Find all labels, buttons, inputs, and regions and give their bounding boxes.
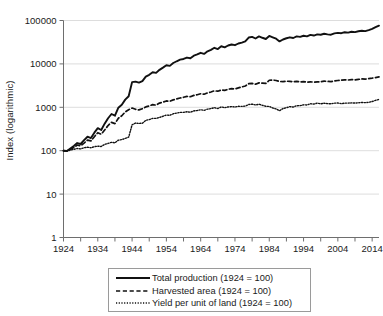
x-tick-label: 1944 bbox=[122, 243, 143, 254]
legend-item-yield: Yield per unit of land (1924 = 100) bbox=[114, 297, 304, 309]
x-tick-label: 1964 bbox=[190, 243, 211, 254]
legend-label-total: Total production (1924 = 100) bbox=[152, 272, 273, 284]
chart-legend: Total production (1924 = 100) Harvested … bbox=[108, 268, 311, 312]
legend-swatch-dashed-icon bbox=[114, 285, 152, 297]
x-tick-label: 1984 bbox=[259, 243, 280, 254]
y-tick-label: 10000 bbox=[30, 58, 56, 69]
x-tick-label: 1954 bbox=[156, 243, 177, 254]
y-tick-label: 1000 bbox=[35, 102, 56, 113]
axis-ticks bbox=[60, 21, 373, 242]
legend-swatch-solid-icon bbox=[114, 272, 152, 284]
y-tick-label: 100 bbox=[41, 145, 57, 156]
legend-swatch-dotted-icon bbox=[114, 297, 152, 309]
y-axis-tick-labels: 100000100001000100101 bbox=[25, 15, 57, 243]
y-tick-label: 1 bbox=[51, 232, 56, 243]
legend-label-harvested: Harvested area (1924 = 100) bbox=[152, 285, 271, 297]
series-line-total-production bbox=[64, 26, 380, 151]
y-tick-label: 100000 bbox=[25, 15, 57, 26]
axis-lines bbox=[64, 21, 380, 238]
y-tick-label: 10 bbox=[46, 189, 57, 200]
x-tick-label: 1994 bbox=[293, 243, 314, 254]
legend-item-harvested: Harvested area (1924 = 100) bbox=[114, 284, 304, 296]
x-tick-label: 2004 bbox=[327, 243, 348, 254]
x-tick-label: 1974 bbox=[224, 243, 245, 254]
legend-label-yield: Yield per unit of land (1924 = 100) bbox=[152, 297, 292, 309]
x-tick-label: 2014 bbox=[362, 243, 383, 254]
x-tick-label: 1934 bbox=[87, 243, 108, 254]
legend-item-total: Total production (1924 = 100) bbox=[114, 272, 304, 284]
x-axis-tick-labels: 1924193419441954196419741984199420042014 bbox=[53, 243, 383, 254]
x-tick-label: 1924 bbox=[53, 243, 74, 254]
gridlines bbox=[64, 21, 380, 238]
chart-container: Index (logarithmic) 10000010000100010010… bbox=[0, 0, 383, 316]
data-series bbox=[64, 26, 380, 151]
